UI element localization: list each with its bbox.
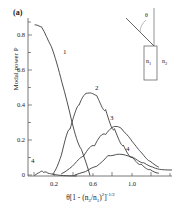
theta-arc [140, 20, 146, 32]
inset-core-index-label: n1 [146, 58, 151, 67]
curve-label-1: 1 [63, 49, 67, 56]
x-axis-ticks [34, 172, 170, 176]
inset-clad-index-label: n2 [162, 58, 167, 67]
clad-index-subscript: 2 [165, 61, 167, 66]
x-axis-label: θ[1 - (n2/n1)2]-1/2 [0, 192, 181, 203]
core-index-subscript: 1 [149, 61, 151, 66]
y-axis-ticks [28, 22, 32, 175]
curve-label-4-low: 4 [31, 158, 35, 165]
curve-label-3: 3 [110, 115, 114, 122]
curve-mode-4-low [35, 171, 77, 176]
inset-fiber-diagram [116, 6, 180, 84]
x-label-exponent: -1/2 [107, 192, 115, 197]
x-label-bracket-open: [1 - (n [70, 193, 89, 202]
theta-symbol: θ [145, 12, 148, 18]
inset-theta-label: θ [145, 12, 148, 18]
figure-panel: (a) Modal power P 0 0.2 0.4 0.6 0.8 0.2 … [0, 0, 181, 211]
curve-label-2: 2 [95, 85, 99, 92]
curve-label-4: 4 [126, 146, 130, 153]
